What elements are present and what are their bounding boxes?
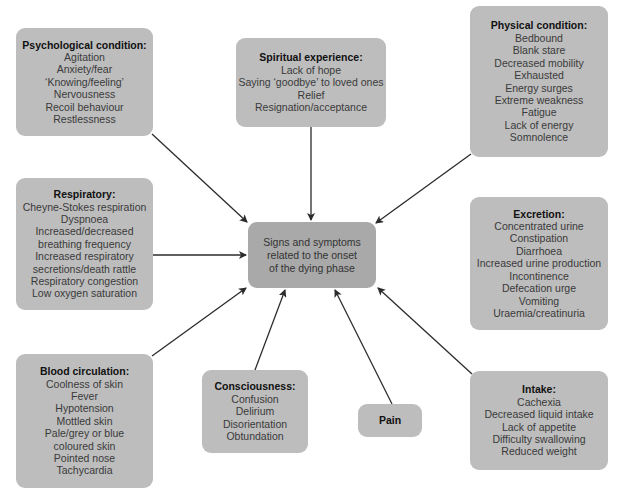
respiratory-box: Respiratory: Cheyne-Stokes respiration D… bbox=[16, 178, 153, 310]
list-item: Decreased liquid intake bbox=[484, 408, 593, 420]
list-item: Vomiting bbox=[519, 295, 559, 307]
list-item: Decreased mobility bbox=[494, 57, 583, 69]
list-item: Uraemia/creatinuria bbox=[493, 307, 585, 319]
list-item: Pale/grey or blue bbox=[45, 427, 124, 439]
list-item: Fatigue bbox=[521, 106, 556, 118]
list-item: Dyspnoea bbox=[61, 213, 108, 225]
center-node: Signs and symptoms related to the onset … bbox=[248, 222, 376, 288]
list-item: Extreme weakness bbox=[495, 94, 584, 106]
list-item: Increased respiratory bbox=[35, 250, 134, 262]
pain-title: Pain bbox=[379, 414, 401, 426]
intake-title: Intake: bbox=[522, 383, 556, 395]
list-item: Increased urine production bbox=[477, 257, 601, 269]
list-item: Concentrated urine bbox=[494, 220, 583, 232]
list-item: secretions/death rattle bbox=[33, 263, 136, 275]
list-item: Constipation bbox=[510, 232, 568, 244]
arrow-intake bbox=[378, 288, 472, 374]
list-item: Blank stare bbox=[513, 44, 566, 56]
list-item: Nervousness bbox=[54, 88, 115, 100]
psychological-title: Psychological condition: bbox=[22, 39, 146, 51]
list-item: Somnolence bbox=[510, 131, 568, 143]
list-item: Pointed nose bbox=[54, 452, 115, 464]
list-item: Restlessness bbox=[53, 113, 115, 125]
list-item: Obtundation bbox=[226, 430, 283, 442]
list-item: Cheyne-Stokes respiration bbox=[23, 201, 147, 213]
physical-condition-box: Physical condition: Bedbound Blank stare… bbox=[470, 6, 608, 157]
arrow-psychological bbox=[152, 134, 247, 222]
list-item: Difficulty swallowing bbox=[492, 433, 585, 445]
arrow-consciousness bbox=[255, 290, 285, 370]
list-item: Cachexia bbox=[517, 396, 561, 408]
list-item: Bedbound bbox=[515, 32, 563, 44]
list-item: coloured skin bbox=[54, 440, 116, 452]
center-line-2: related to the onset bbox=[267, 249, 357, 262]
center-line-3: of the dying phase bbox=[269, 262, 355, 275]
list-item: Low oxygen saturation bbox=[32, 287, 137, 299]
arrow-pain bbox=[335, 290, 392, 404]
list-item: Disorientation bbox=[223, 418, 287, 430]
spiritual-title: Spiritual experience: bbox=[259, 51, 362, 63]
list-item: Lack of energy bbox=[505, 119, 574, 131]
list-item: Energy surges bbox=[505, 82, 573, 94]
blood-title: Blood circulation: bbox=[40, 365, 129, 377]
list-item: Recoil behaviour bbox=[45, 101, 123, 113]
list-item: Mottled skin bbox=[56, 415, 112, 427]
list-item: Resignation/acceptance bbox=[255, 101, 367, 113]
psychological-condition-box: Psychological condition: Agitation Anxie… bbox=[16, 28, 153, 136]
list-item: Increased/decreased bbox=[35, 225, 133, 237]
excretion-box: Excretion: Concentrated urine Constipati… bbox=[470, 197, 608, 330]
list-item: Saying ‘goodbye’ to loved ones bbox=[239, 76, 384, 88]
center-line-1: Signs and symptoms bbox=[263, 236, 360, 249]
list-item: Exhausted bbox=[514, 69, 564, 81]
list-item: Incontinence bbox=[509, 270, 569, 282]
list-item: Reduced weight bbox=[501, 445, 576, 457]
list-item: Agitation bbox=[64, 51, 105, 63]
list-item: Diarrhoea bbox=[516, 245, 562, 257]
list-item: ‘Knowing/feeling’ bbox=[45, 76, 124, 88]
list-item: Respiratory congestion bbox=[31, 275, 138, 287]
list-item: Tachycardia bbox=[56, 464, 112, 476]
spiritual-experience-box: Spiritual experience: Lack of hope Sayin… bbox=[236, 38, 386, 127]
list-item: Lack of appetite bbox=[502, 421, 576, 433]
physical-title: Physical condition: bbox=[491, 19, 587, 31]
list-item: Anxiety/fear bbox=[57, 63, 112, 75]
list-item: Fever bbox=[71, 390, 98, 402]
list-item: Confusion bbox=[231, 393, 278, 405]
excretion-title: Excretion: bbox=[513, 208, 564, 220]
list-item: Lack of hope bbox=[281, 64, 341, 76]
list-item: Coolness of skin bbox=[46, 378, 123, 390]
list-item: Defecation urge bbox=[502, 282, 576, 294]
arrow-physical bbox=[376, 154, 471, 223]
consciousness-title: Consciousness: bbox=[214, 380, 295, 392]
respiratory-title: Respiratory: bbox=[54, 188, 116, 200]
list-item: breathing frequency bbox=[38, 238, 131, 250]
blood-circulation-box: Blood circulation: Coolness of skin Feve… bbox=[16, 354, 153, 488]
list-item: Hypotension bbox=[55, 402, 113, 414]
pain-box: Pain bbox=[358, 404, 422, 437]
intake-box: Intake: Cachexia Decreased liquid intake… bbox=[470, 371, 608, 470]
list-item: Delirium bbox=[236, 405, 275, 417]
list-item: Relief bbox=[298, 89, 325, 101]
consciousness-box: Consciousness: Confusion Delirium Disori… bbox=[202, 370, 308, 453]
arrow-blood bbox=[152, 288, 246, 356]
